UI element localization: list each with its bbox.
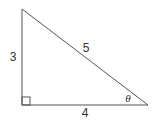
side-label-hypotenuse: 5 [83, 41, 90, 55]
angle-label-theta: θ [125, 92, 131, 104]
side-label-vertical: 3 [10, 50, 17, 64]
side-label-horizontal: 4 [82, 106, 89, 120]
right-angle-marker [22, 97, 30, 105]
right-triangle [22, 9, 148, 105]
triangle-diagram: 3 4 5 θ [0, 0, 155, 121]
